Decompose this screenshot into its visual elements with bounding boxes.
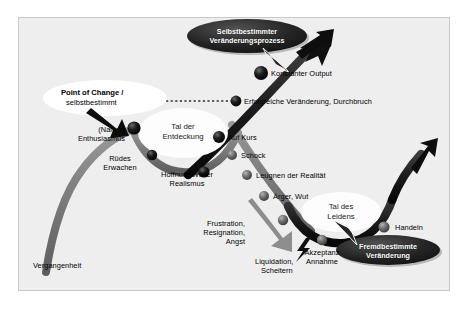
label-naiver-enthusiasmus-line1: (Naiver) <box>0 125 125 134</box>
label-auf-kurs: Auf Kurs <box>228 133 257 142</box>
curve-past-to-change <box>46 128 135 272</box>
valley-discovery-line1: Tal der <box>171 122 194 132</box>
label-schock: Schock <box>241 151 266 160</box>
label-ruedes-erwachen-line1: Rüdes <box>109 154 131 163</box>
node-akzeptanz <box>317 235 327 245</box>
valley-suffering-line1: Tal des <box>329 202 354 212</box>
label-akzeptanz-line2: Annahme <box>306 257 338 266</box>
node-erfolgreiche-veraenderung <box>231 96 242 107</box>
bubble-selbstbestimmter-line1: Selbstbestimmter <box>217 27 277 36</box>
label-akzeptanz-line1: Akzeptanz <box>305 248 340 257</box>
node-aerger-wut <box>259 191 269 201</box>
node-konstanter-output <box>254 66 268 80</box>
callout-point-of-change-line1: Point of Change / <box>61 88 123 97</box>
label-liquidation-line1: Liquidation, <box>255 257 293 266</box>
node-naiver-enthusiasmus <box>127 121 140 134</box>
node-handeln <box>378 221 389 232</box>
label-frustration-line2: Resignation, <box>150 228 245 237</box>
node-frustration <box>278 215 288 225</box>
label-handeln: Handeln <box>395 223 423 232</box>
valley-suffering-line2: Leidens <box>327 212 354 222</box>
label-frustration-line1: Frustration, <box>150 219 245 228</box>
bubble-fremdbestimmte-line2: Veränderung <box>366 251 410 260</box>
node-ruedes-erwachen <box>147 150 157 160</box>
bubble-fremdbestimmte-line1: Fremdbestimmte <box>359 242 417 251</box>
label-hoffnungsvoller-realismus-line1: Hoffnungsvoller <box>161 170 213 179</box>
callout-point-of-change-line2: selbstbestimmt <box>66 98 117 107</box>
label-konstanter-output: Konstanter Output <box>271 69 332 78</box>
label-vergangenheit: Vergangenheit <box>33 261 81 270</box>
node-auf-kurs <box>213 131 225 143</box>
label-ruedes-erwachen-line2: Erwachen <box>103 163 136 172</box>
label-leugnen-der-realitaet: Leugnen der Realität <box>256 171 326 180</box>
diagram-page: Point of Change / selbstbestimmt Selbstb… <box>0 0 467 309</box>
label-erfolgreiche-veraenderung: Erfolgreiche Veränderung, Durchbruch <box>244 97 372 106</box>
label-liquidation-line2: Scheitern <box>261 266 293 275</box>
label-hoffnungsvoller-realismus-line2: Realismus <box>170 179 205 188</box>
label-frustration-line3: Angst <box>150 237 245 246</box>
bubble-selbstbestimmter-line2: Veränderungsprozess <box>209 36 284 45</box>
label-aerger-wut: Ärger, Wut <box>273 192 308 201</box>
node-leugnen-der-realitaet <box>242 170 252 180</box>
node-schock <box>227 150 237 160</box>
valley-discovery-line2: Entdeckung <box>162 132 203 142</box>
label-naiver-enthusiasmus-line2: Enthusiasmus <box>0 134 125 143</box>
